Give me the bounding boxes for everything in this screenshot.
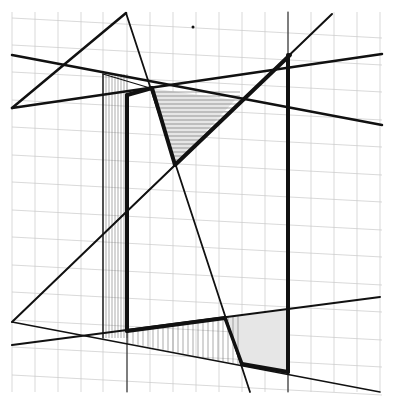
drawing-svg (0, 0, 395, 401)
perspective-drawing (0, 0, 395, 401)
pencil-dot (192, 26, 195, 29)
marks-layer (192, 26, 195, 29)
